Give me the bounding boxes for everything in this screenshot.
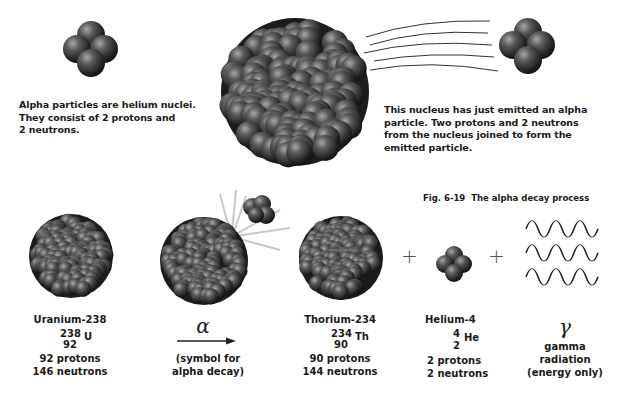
- motion-trail-icon: [360, 15, 500, 75]
- proton-count: 92 protons: [20, 352, 120, 365]
- arrow-icon: [176, 336, 238, 346]
- mass-number: 234: [331, 328, 352, 339]
- gamma-wave-icon: [524, 225, 600, 297]
- helium-counts: 2 protons 2 neutrons: [427, 354, 507, 380]
- alpha-symbol: α: [183, 314, 223, 338]
- figure-title: The alpha decay process: [471, 193, 589, 203]
- caption-line: emitted particle.: [384, 142, 614, 155]
- caption-line: from the nucleus joined to form the: [384, 129, 614, 142]
- thorium-nucleus-icon: [297, 214, 385, 302]
- element-symbol: U: [84, 331, 92, 342]
- atomic-number: 90: [334, 339, 348, 350]
- alpha-decay-note: (symbol for alpha decay): [158, 352, 258, 378]
- helium-label: Helium-4: [425, 313, 495, 326]
- plus-sign: +: [488, 244, 505, 268]
- atomic-number: 92: [63, 339, 77, 350]
- uranium-nucleus-icon: [27, 212, 115, 300]
- caption-line: 2 neutrons.: [19, 124, 229, 137]
- nucleus-caption: This nucleus has just emitted an alpha p…: [384, 104, 614, 154]
- helium-nucleus-icon: [434, 244, 474, 284]
- alpha-particle-icon: [60, 18, 120, 80]
- caption-line: They consist of 2 protons and: [19, 112, 229, 125]
- element-symbol: Th: [355, 331, 369, 342]
- note-line: gamma: [515, 340, 615, 353]
- neutron-count: 2 neutrons: [427, 367, 507, 380]
- note-line: (symbol for: [158, 352, 258, 365]
- neutron-count: 144 neutrons: [290, 365, 390, 378]
- proton-count: 90 protons: [290, 352, 390, 365]
- uranium-label: Uranium-238: [20, 313, 120, 326]
- caption-line: Alpha particles are helium nuclei.: [19, 99, 229, 112]
- note-line: alpha decay): [158, 365, 258, 378]
- figure-caption: Fig. 6-19The alpha decay process: [423, 193, 589, 203]
- note-line: radiation: [515, 353, 615, 366]
- thorium-label: Thorium-234: [290, 313, 390, 326]
- mass-number: 4: [453, 328, 460, 339]
- isotope-name: Helium-4: [425, 313, 495, 326]
- caption-line: particle. Two protons and 2 neutrons: [384, 117, 614, 130]
- mass-number: 238: [60, 328, 81, 339]
- thorium-counts: 90 protons 144 neutrons: [290, 352, 390, 378]
- decaying-nucleus-icon: [158, 215, 250, 307]
- large-nucleus-icon: [215, 10, 375, 170]
- proton-count: 2 protons: [427, 354, 507, 367]
- figure-number: Fig. 6-19: [423, 193, 465, 203]
- gamma-note: gamma radiation (energy only): [515, 340, 615, 379]
- element-symbol: He: [464, 332, 479, 343]
- emitted-alpha-icon: [496, 15, 560, 79]
- alpha-particle-caption: Alpha particles are helium nuclei. They …: [19, 99, 229, 137]
- isotope-name: Thorium-234: [290, 313, 390, 326]
- neutron-count: 146 neutrons: [20, 365, 120, 378]
- isotope-name: Uranium-238: [20, 313, 120, 326]
- caption-line: This nucleus has just emitted an alpha: [384, 104, 614, 117]
- atomic-number: 2: [453, 340, 460, 351]
- uranium-counts: 92 protons 146 neutrons: [20, 352, 120, 378]
- ejected-alpha-icon: [240, 195, 276, 225]
- note-line: (energy only): [515, 366, 615, 379]
- gamma-symbol: γ: [545, 315, 585, 339]
- plus-sign: +: [401, 244, 418, 268]
